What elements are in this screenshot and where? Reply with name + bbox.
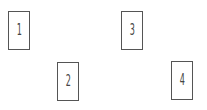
card-2-label: 2	[65, 74, 70, 89]
card-2[interactable]: 2	[57, 62, 79, 101]
card-1-label: 1	[16, 23, 21, 38]
card-3[interactable]: 3	[121, 11, 143, 50]
card-1[interactable]: 1	[8, 11, 30, 50]
card-4-label: 4	[179, 73, 184, 88]
card-3-label: 3	[129, 23, 134, 38]
card-4[interactable]: 4	[171, 61, 193, 100]
